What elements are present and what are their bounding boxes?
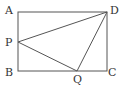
label-q: Q	[73, 73, 82, 86]
segment-pq	[18, 42, 77, 71]
geometry-diagram: A D P B C Q	[0, 0, 126, 90]
label-b: B	[5, 66, 13, 79]
label-a: A	[4, 4, 14, 17]
label-c: C	[108, 66, 116, 79]
label-p: P	[5, 36, 13, 49]
rectangle-abcd	[18, 12, 107, 71]
label-d: D	[110, 4, 119, 17]
